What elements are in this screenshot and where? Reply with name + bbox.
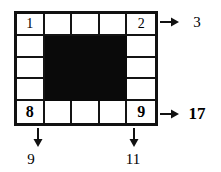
row1-sum-label: 3: [182, 15, 212, 30]
col5-sum-label: 11: [119, 152, 147, 167]
grid-cell-r3c5[interactable]: [127, 58, 155, 80]
cell-value-r5c1: 8: [17, 104, 43, 120]
arrow-right-icon-row1: [160, 15, 180, 29]
puzzle-grid: 1289: [14, 11, 158, 126]
grid-cell-r3c2[interactable]: [45, 58, 73, 80]
grid-cell-r1c5[interactable]: 2: [127, 14, 155, 36]
row5-sum-label: 17: [177, 105, 217, 122]
grid-cell-r5c3[interactable]: [72, 101, 100, 123]
grid-cell-r4c3[interactable]: [72, 79, 100, 101]
puzzle-figure: 1289 3 17 9 11: [0, 0, 221, 172]
grid-cell-r1c3[interactable]: [72, 14, 100, 36]
grid-cell-r4c5[interactable]: [127, 79, 155, 101]
grid-cell-r1c4[interactable]: [100, 14, 128, 36]
grid-cell-r5c1[interactable]: 8: [17, 101, 45, 123]
cell-value-r1c5: 2: [127, 17, 155, 31]
grid-cell-r3c3[interactable]: [72, 58, 100, 80]
col1-sum-label: 9: [20, 152, 42, 167]
cell-value-r5c5: 9: [127, 104, 155, 120]
grid-cell-r3c1[interactable]: [17, 58, 45, 80]
grid-cell-r5c4[interactable]: [100, 101, 128, 123]
grid-cell-r4c1[interactable]: [17, 79, 45, 101]
grid-cell-r5c2[interactable]: [45, 101, 73, 123]
arrow-down-icon-col1: [31, 128, 45, 148]
grid-cell-r2c3[interactable]: [72, 36, 100, 58]
grid-cell-r2c5[interactable]: [127, 36, 155, 58]
cell-value-r1c1: 1: [17, 17, 43, 31]
grid-cell-r2c1[interactable]: [17, 36, 45, 58]
arrow-down-icon-col5: [127, 128, 141, 148]
grid-cell-r5c5[interactable]: 9: [127, 101, 155, 123]
grid-cell-r1c1[interactable]: 1: [17, 14, 45, 36]
grid-cell-r2c2[interactable]: [45, 36, 73, 58]
grid-cell-r4c4[interactable]: [100, 79, 128, 101]
grid-cell-r2c4[interactable]: [100, 36, 128, 58]
grid-cell-r4c2[interactable]: [45, 79, 73, 101]
grid-cell-r1c2[interactable]: [45, 14, 73, 36]
grid-cell-r3c4[interactable]: [100, 58, 128, 80]
